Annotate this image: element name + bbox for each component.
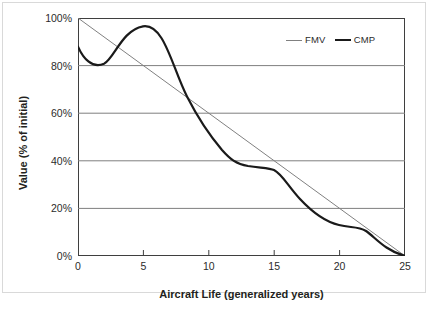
chart-legend: FMV CMP (286, 35, 375, 45)
legend-item-fmv: FMV (286, 35, 326, 45)
legend-item-cmp: CMP (335, 35, 376, 45)
x-tick-label-20: 20 (320, 261, 360, 272)
plot-area: FMV CMP (78, 18, 405, 256)
plot-canvas (78, 18, 405, 256)
legend-swatch-fmv-icon (286, 40, 302, 41)
y-tick-label-100: 100% (26, 13, 72, 24)
y-tick-label-0: 0% (26, 251, 72, 262)
chart-figure: Value (% of initial) 100% 80% 60% 40% 20… (0, 0, 428, 317)
x-tick-marks (143, 250, 339, 256)
x-tick-label-15: 15 (254, 261, 294, 272)
series-line-fmv (78, 18, 405, 256)
x-tick-label-5: 5 (123, 261, 163, 272)
y-tick-label-40: 40% (26, 155, 72, 166)
y-tick-label-60: 60% (26, 108, 72, 119)
legend-label-fmv: FMV (305, 35, 326, 45)
x-axis-title: Aircraft Life (generalized years) (78, 288, 405, 300)
x-tick-label-10: 10 (189, 261, 229, 272)
x-tick-label-0: 0 (58, 261, 98, 272)
y-tick-label-80: 80% (26, 60, 72, 71)
y-tick-label-20: 20% (26, 203, 72, 214)
series-line-cmp (78, 26, 405, 256)
x-tick-label-25: 25 (385, 261, 425, 272)
legend-label-cmp: CMP (354, 35, 376, 45)
legend-swatch-cmp-icon (335, 39, 351, 41)
